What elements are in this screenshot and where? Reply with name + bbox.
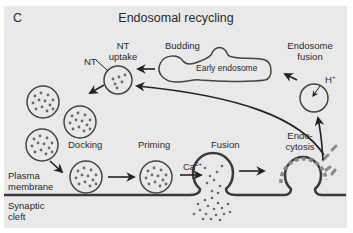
- label-fusion: Fusion: [211, 139, 240, 150]
- figure-title: Endosomal recycling: [118, 11, 233, 25]
- label-proton: H+: [325, 72, 335, 85]
- clathrin-fragments: [323, 146, 336, 174]
- label-synaptic-cleft: Synaptic cleft: [8, 200, 44, 222]
- arrow-nt-pointer: [96, 60, 108, 71]
- panel-letter: C: [13, 11, 22, 25]
- label-nt-uptake: NT uptake: [109, 40, 138, 62]
- label-docking: Docking: [68, 139, 102, 150]
- label-calcium: Ca2+: [183, 159, 202, 172]
- arrow-endosome-fusion: [285, 74, 297, 80]
- label-endosome-fusion: Endosome fusion: [287, 40, 332, 62]
- arrow-proton-pointer: [313, 86, 320, 96]
- endosomal-recycling-diagram: [0, 0, 353, 233]
- label-nt: NT: [84, 56, 97, 67]
- clathrin-coat: [281, 159, 326, 183]
- arrow-nt-uptake-to-pool: [90, 85, 104, 93]
- label-budding: Budding: [165, 40, 200, 51]
- label-endocytosis: Endo- cytosis: [285, 130, 314, 152]
- label-plasma-membrane: Plasma membrane: [8, 170, 53, 192]
- label-early-endosome: Early endosome: [196, 63, 257, 74]
- label-priming: Priming: [138, 139, 170, 150]
